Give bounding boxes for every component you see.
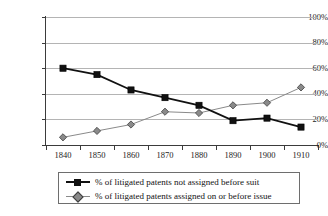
legend-key-diamond-icon bbox=[65, 190, 91, 202]
gridline bbox=[46, 94, 318, 95]
x-axis-tick-label: 1910 bbox=[281, 150, 321, 160]
chart-legend: % of litigated patents not assigned befo… bbox=[58, 172, 300, 204]
gridline bbox=[46, 17, 318, 18]
gridline bbox=[46, 43, 318, 44]
plot-area bbox=[46, 17, 318, 145]
legend-key-square-icon bbox=[65, 176, 91, 188]
legend-label-not-assigned-before-suit: % of litigated patents not assigned befo… bbox=[95, 177, 259, 188]
x-axis-tick-mark bbox=[46, 146, 47, 150]
gridline bbox=[46, 68, 318, 69]
x-axis-tick-mark bbox=[318, 146, 319, 150]
legend-label-assigned-on-or-before-issue: % of litigated patents assigned on or be… bbox=[95, 191, 271, 202]
gridline bbox=[46, 119, 318, 120]
chart-screenshot: 0%20%40%60%80%100% 184018501860187018801… bbox=[0, 0, 328, 216]
legend-item-assigned-on-or-before-issue: % of litigated patents assigned on or be… bbox=[65, 189, 299, 203]
legend-item-not-assigned-before-suit: % of litigated patents not assigned befo… bbox=[65, 175, 299, 189]
